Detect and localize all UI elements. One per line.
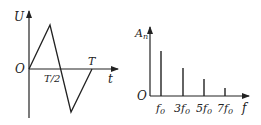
t-axis-label: t	[108, 72, 113, 86]
tick-3f0: 3f0	[174, 102, 190, 116]
frequency-axis-label: f	[241, 101, 249, 115]
spectrum-plot: An O f f0 3f0 5f0 7f0	[134, 27, 249, 116]
time-domain-plot: U O t T/2 T	[14, 10, 118, 118]
origin-label: O	[137, 89, 147, 103]
tick-5f0: 5f0	[196, 102, 212, 116]
tick-7f0: 7f0	[217, 102, 233, 116]
figure: U O t T/2 T An O f f0 3f0 5f0 7f0	[0, 0, 261, 125]
u-axis-label: U	[14, 10, 25, 24]
half-period-label: T/2	[44, 73, 60, 84]
amplitude-axis-label: An	[134, 27, 148, 41]
tick-f0: f0	[155, 102, 165, 116]
origin-label: O	[15, 62, 25, 76]
period-label: T	[88, 55, 97, 68]
